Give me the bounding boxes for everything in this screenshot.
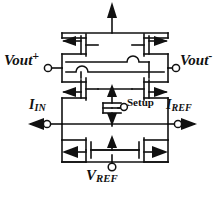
i-ref-arrow [181,118,197,130]
supply-current-arrow [107,2,117,33]
label-v-ref-base: V [86,167,96,183]
i-ref-terminal[interactable] [174,120,181,127]
bottom-current-arrow-up [107,135,117,150]
i-ref-rail [112,124,174,140]
i-in-rail [51,124,112,140]
i-in-terminal[interactable] [43,120,50,127]
label-vout-minus: Vout- [180,50,212,68]
label-v-ref: VREF [86,168,118,184]
label-vout-plus-base: Vout [4,52,32,68]
label-vout-minus-script: - [208,49,212,63]
vout-minus-terminal[interactable] [172,64,179,71]
vout-plus-terminal[interactable] [44,64,51,71]
vout-minus-net [168,68,172,82]
label-vout-minus-base: Vout [180,52,208,68]
vout-plus-net [52,68,62,82]
i-in-arrow [28,118,44,130]
label-vout-plus-script: + [32,49,39,63]
circuit-schematic-figure: Vout+ Vout- IIN IREF VREF Setup [0,0,223,200]
label-i-ref: IREF [166,98,192,113]
nmos-mid-left [62,78,98,124]
pmos-top-right [132,33,168,68]
label-i-ref-script: REF [171,102,191,113]
tail-current-arrow-up [107,84,117,97]
label-vout-plus: Vout+ [4,50,39,68]
label-v-ref-script: REF [96,172,118,184]
label-i-in-script: IN [34,102,45,113]
label-i-in: IIN [29,98,46,113]
label-setup: Setup [127,97,154,108]
